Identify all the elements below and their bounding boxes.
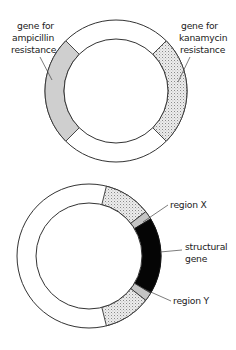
structural-gene-label: structural gene (185, 241, 230, 264)
plasmid-diagram: gene for ampicillin resistance gene for … (0, 0, 236, 350)
region-x-label: region X (170, 199, 207, 210)
plasmid-top-inner-ring (64, 39, 168, 143)
plasmid-bottom: region X structural gene region Y (17, 184, 230, 328)
kanamycin-label: gene for kanamycin resistance (179, 20, 230, 55)
plasmid-bottom-inner-ring (36, 203, 142, 309)
region-y-label: region Y (173, 295, 210, 306)
plasmid-top: gene for ampicillin resistance gene for … (11, 20, 230, 162)
structural-gene-leader-line (160, 250, 182, 252)
ampicillin-label: gene for ampicillin resistance (11, 20, 57, 55)
